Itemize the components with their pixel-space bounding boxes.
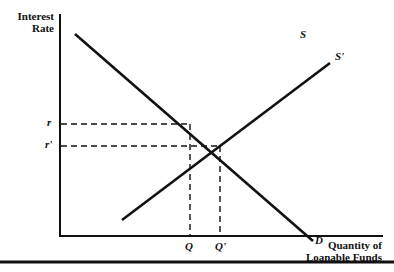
curve-s-prime bbox=[122, 63, 330, 220]
chart-canvas bbox=[0, 0, 394, 272]
x-tick-q-prime: Q' bbox=[215, 240, 226, 252]
x-axis-title-line1: Quantity of bbox=[270, 239, 382, 251]
curve-label-d: D bbox=[315, 234, 323, 246]
curve-d bbox=[75, 34, 313, 241]
y-axis-title-line2: Rate bbox=[4, 22, 54, 34]
curve-label-s: S bbox=[300, 28, 306, 40]
y-tick-r-prime: r' bbox=[45, 138, 52, 150]
y-axis-title: Interest Rate bbox=[4, 10, 54, 34]
y-axis-title-line1: Interest bbox=[4, 10, 54, 22]
curves bbox=[75, 34, 330, 241]
y-tick-r: r bbox=[47, 116, 51, 128]
x-tick-q: Q bbox=[185, 240, 193, 252]
curve-label-s-prime: S' bbox=[335, 50, 344, 62]
x-axis-title: Quantity of Loanable Funds bbox=[270, 239, 382, 263]
x-axis-title-line2: Loanable Funds bbox=[270, 251, 382, 263]
